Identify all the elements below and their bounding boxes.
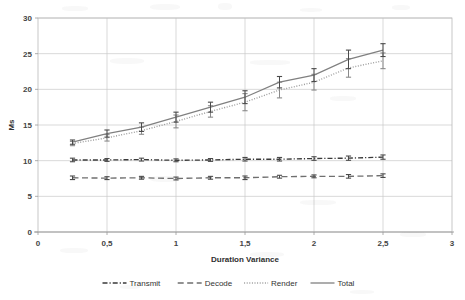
chart-canvas: 05101520253000,511,522,53Duration Varian…: [0, 0, 465, 300]
legend-item-render[interactable]: Render: [244, 279, 298, 288]
chart-legend: TransmitDecodeRenderTotal: [103, 279, 355, 288]
x-axis-tick-label: 2,5: [377, 239, 389, 248]
legend-label: Total: [338, 279, 355, 288]
x-axis-tick-label: 3: [450, 239, 455, 248]
legend-label: Decode: [205, 279, 233, 288]
line-chart: 05101520253000,511,522,53Duration Varian…: [0, 0, 465, 300]
y-axis-tick-label: 30: [23, 14, 32, 23]
y-axis-tick-label: 0: [28, 228, 33, 237]
legend-item-total[interactable]: Total: [311, 279, 355, 288]
legend-item-transmit[interactable]: Transmit: [103, 279, 162, 288]
x-axis-title: Duration Variance: [211, 255, 280, 264]
x-axis-tick-label: 2: [312, 239, 317, 248]
legend-label: Transmit: [130, 279, 162, 288]
y-axis-title: Ms: [7, 119, 16, 131]
y-axis-tick-label: 25: [23, 50, 32, 59]
legend-item-decode[interactable]: Decode: [178, 279, 233, 288]
x-axis-tick-label: 0,5: [101, 239, 113, 248]
x-axis-tick-label: 1,5: [239, 239, 251, 248]
y-axis-tick-label: 10: [23, 157, 32, 166]
y-axis-tick-label: 20: [23, 85, 32, 94]
x-axis-tick-label: 0: [36, 239, 41, 248]
x-axis-tick-label: 1: [174, 239, 179, 248]
y-axis-tick-label: 5: [28, 192, 33, 201]
legend-label: Render: [271, 279, 298, 288]
y-axis-tick-label: 15: [23, 121, 32, 130]
